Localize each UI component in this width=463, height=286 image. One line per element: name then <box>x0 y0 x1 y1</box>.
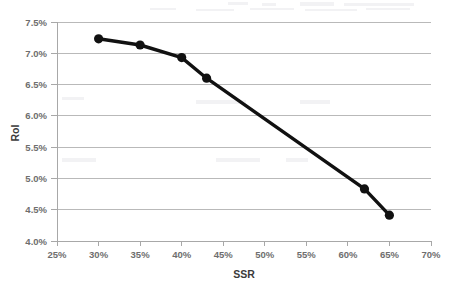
y-tick-label: 6.5% <box>25 79 47 90</box>
x-tick-label: 35% <box>131 249 151 260</box>
x-tick-label: 25% <box>47 249 67 260</box>
x-axis-title: SSR <box>233 268 255 280</box>
roi-vs-ssr-line-chart: 7.5% 7.0% 6.5% 6.0% 5.5% 5.0% 4.5% 4.0% … <box>0 0 463 286</box>
y-tick-label: 7.0% <box>25 48 47 59</box>
y-tick-label: 5.0% <box>25 173 47 184</box>
data-point-marker <box>385 211 394 220</box>
data-point-marker <box>177 53 186 62</box>
data-point-marker <box>136 40 145 49</box>
data-point-marker <box>360 184 369 193</box>
x-tick-label: 70% <box>421 249 441 260</box>
x-tick-label: 30% <box>89 249 109 260</box>
chart-background <box>0 0 463 286</box>
x-tick-label: 45% <box>214 249 234 260</box>
y-tick-label: 5.5% <box>25 142 47 153</box>
x-tick-label: 65% <box>380 249 400 260</box>
y-tick-label: 6.0% <box>25 110 47 121</box>
data-point-marker <box>202 74 211 83</box>
chart-container: 7.5% 7.0% 6.5% 6.0% 5.5% 5.0% 4.5% 4.0% … <box>0 0 463 286</box>
y-tick-label: 4.0% <box>25 236 47 247</box>
x-tick-label: 40% <box>172 249 192 260</box>
y-tick-label: 4.5% <box>25 204 47 215</box>
y-axis-title: RoI <box>9 124 21 141</box>
x-tick-label: 50% <box>255 249 275 260</box>
x-tick-label: 60% <box>338 249 358 260</box>
x-tick-label: 55% <box>297 249 317 260</box>
data-point-marker <box>94 34 103 43</box>
y-tick-label: 7.5% <box>25 17 47 28</box>
